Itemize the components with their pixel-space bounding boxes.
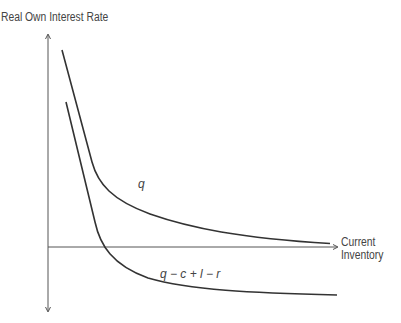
curve-q-c-l-r-label: q − c + l − r [160, 267, 220, 281]
curve-q-label: q [138, 177, 145, 191]
x-axis-label-line2: Inventory [341, 249, 383, 262]
y-axis [46, 34, 51, 312]
curve-q [62, 50, 330, 244]
x-axis [48, 245, 338, 250]
